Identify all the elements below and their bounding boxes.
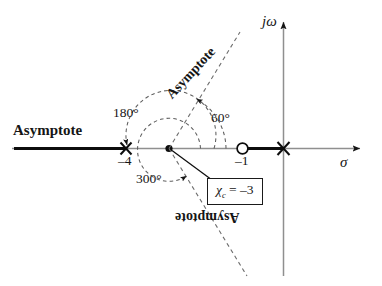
- asymptote-label-lower: Asymptote: [175, 210, 240, 224]
- angle-label-60: 60°: [211, 111, 230, 125]
- centroid-leader-line: [172, 151, 212, 181]
- real-axis-label: σ: [340, 155, 347, 170]
- centroid-value: –3: [240, 182, 254, 197]
- asymptote-label-upper: Asymptote: [164, 92, 229, 106]
- centroid-subscript: c: [222, 191, 226, 200]
- centroid-equals: =: [229, 182, 237, 197]
- centroid-value-box: χc = –3: [207, 178, 263, 205]
- asymptote-label-lower-text: Asymptote: [175, 210, 240, 224]
- pole-minus4-label: –4: [118, 154, 132, 168]
- angle-label-300: 300°: [136, 172, 162, 186]
- asymptote-label-left: Asymptote: [13, 123, 82, 138]
- root-locus-canvas: [0, 0, 382, 286]
- zero-minus1-label: –1: [235, 154, 249, 168]
- root-locus-figure: Asymptote Asymptote Asymptote 180° 60° 3…: [0, 0, 382, 286]
- angle-label-180: 180°: [113, 106, 139, 120]
- imaginary-axis-label: jω: [262, 14, 277, 29]
